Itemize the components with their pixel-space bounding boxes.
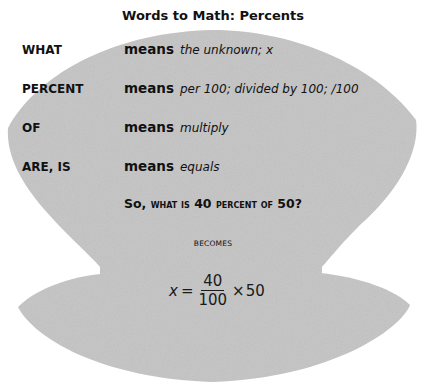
question-number-50: 50? <box>277 196 302 211</box>
term-label: ARE, IS <box>22 159 124 175</box>
equation-variable: x <box>169 282 178 300</box>
means-label: means <box>124 41 174 57</box>
term-label: PERCENT <box>22 81 124 97</box>
equation-equals-sign: = <box>181 282 194 300</box>
definition-text: the unknown; x <box>180 43 273 57</box>
question-what-is: what is <box>151 198 190 211</box>
equation: x = 40 100 × 50 <box>169 273 265 309</box>
example-question: So, what is 40 percent of 50? <box>0 196 426 211</box>
definition-row-what: WHATmeansthe unknown; x <box>22 41 273 58</box>
definition-row-are-is: ARE, ISmeansequals <box>22 158 220 175</box>
means-label: means <box>124 119 174 135</box>
question-so: So, <box>124 196 146 211</box>
definition-row-percent: PERCENTmeansper 100; divided by 100; /10… <box>22 80 359 97</box>
term-label: WHAT <box>22 42 124 58</box>
becomes-label: BECOMES <box>0 239 426 248</box>
question-number-40: 40 <box>194 196 211 211</box>
definition-text: per 100; divided by 100; /100 <box>180 82 359 96</box>
equation-fraction: 40 100 <box>196 273 229 309</box>
definition-row-of: OFmeansmultiply <box>22 119 229 136</box>
question-percent-of: percent of <box>216 198 273 211</box>
means-label: means <box>124 158 174 174</box>
fraction-numerator: 40 <box>201 273 224 291</box>
means-label: means <box>124 80 174 96</box>
definition-text: equals <box>180 160 220 174</box>
page-title: Words to Math: Percents <box>0 8 426 23</box>
definition-text: multiply <box>180 121 229 135</box>
term-label: OF <box>22 120 124 136</box>
equation-times-sign: × <box>232 282 245 300</box>
equation-multiplier: 50 <box>246 282 265 300</box>
fraction-denominator: 100 <box>196 291 229 309</box>
